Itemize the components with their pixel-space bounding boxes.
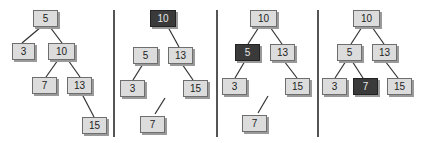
tree-node-7: 7	[140, 116, 165, 133]
tree-node-15: 15	[285, 78, 310, 95]
tree-node-5-highlighted: 5	[235, 44, 260, 61]
tree-edge	[82, 94, 94, 117]
tree-node-13: 13	[67, 77, 92, 94]
tree-node-13: 13	[372, 44, 397, 61]
panel-divider	[317, 10, 319, 137]
tree-node-10: 10	[48, 43, 75, 60]
tree-edge	[168, 27, 179, 47]
tree-node-5: 5	[337, 44, 362, 61]
tree-edge	[372, 27, 384, 44]
tree-edge	[68, 60, 80, 77]
tree-node-13: 13	[270, 44, 295, 61]
tree-edge	[22, 27, 41, 43]
tree-edge	[50, 27, 62, 43]
bst-deletion-diagram: 531071315105133157105133157105133715	[0, 0, 432, 143]
tree-node-10: 10	[353, 10, 380, 27]
tree-node-15: 15	[387, 78, 412, 95]
tree-node-3: 3	[222, 78, 247, 95]
tree-edge	[258, 96, 268, 113]
tree-edge	[235, 61, 245, 78]
tree-edge	[155, 98, 165, 114]
tree-edge	[385, 61, 398, 78]
tree-node-3: 3	[322, 78, 347, 95]
tree-node-10: 10	[250, 10, 277, 27]
tree-node-3: 3	[120, 80, 145, 97]
tree-node-10-highlighted: 10	[150, 10, 176, 27]
tree-node-15: 15	[82, 117, 107, 134]
tree-node-3: 3	[12, 43, 35, 60]
tree-edge	[248, 27, 259, 44]
tree-node-7: 7	[242, 115, 267, 132]
tree-node-7: 7	[32, 77, 57, 94]
tree-node-5: 5	[133, 47, 158, 64]
tree-edge	[352, 61, 363, 78]
panel-divider	[216, 10, 218, 137]
tree-edge	[335, 61, 346, 78]
tree-edge	[270, 27, 282, 44]
tree-edge	[46, 60, 58, 77]
tree-node-15: 15	[183, 80, 208, 97]
tree-edge	[182, 64, 193, 80]
panel-divider	[113, 10, 115, 137]
tree-edge	[284, 61, 297, 78]
tree-edge	[351, 27, 362, 44]
tree-edge	[133, 64, 143, 80]
tree-node-5: 5	[33, 10, 58, 27]
tree-node-7-highlighted: 7	[353, 78, 378, 95]
tree-node-13: 13	[168, 47, 193, 64]
